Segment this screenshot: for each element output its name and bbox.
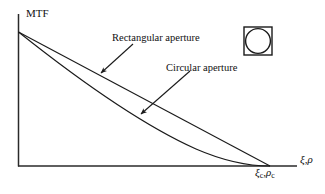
mtf-plot-svg — [0, 0, 325, 194]
cutoff-frequency-label: ξc,ρc — [255, 167, 275, 180]
inset-aperture-diagram — [244, 27, 272, 55]
mtf-aperture-figure: MTF Rectangular aperture Circular apertu… — [0, 0, 325, 194]
inset-circle-icon — [246, 29, 271, 54]
annotation-circular-aperture: Circular aperture — [166, 63, 237, 74]
annotation-rectangular-aperture: Rectangular aperture — [112, 33, 200, 44]
leader-arrow-circular — [141, 71, 190, 114]
inset-square-icon — [244, 27, 272, 55]
leader-arrow-rectangular — [101, 44, 133, 73]
x-axis-label-rho: ρ — [307, 153, 312, 165]
x-axis-label: ξ,ρ — [300, 154, 313, 165]
curve-rectangular-aperture — [19, 32, 271, 166]
y-axis-label: MTF — [26, 8, 49, 19]
cutoff-rho-subscript: c — [271, 171, 275, 180]
